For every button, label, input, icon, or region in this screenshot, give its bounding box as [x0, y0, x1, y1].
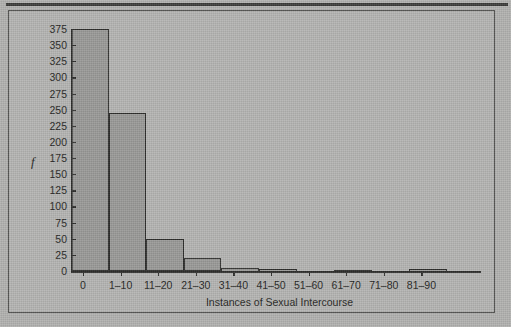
- x-tick-mark: [309, 271, 310, 276]
- x-tick-mark: [346, 271, 347, 276]
- figure-frame: 0255075100125150175200225250275300325350…: [8, 10, 495, 313]
- histogram-bar: [146, 239, 184, 271]
- x-tick-label: 1–10: [109, 279, 132, 291]
- y-tick-mark: [71, 126, 76, 127]
- histogram-plot: 0255075100125150175200225250275300325350…: [9, 11, 494, 312]
- x-tick-mark: [384, 271, 385, 276]
- y-tick-label: 200: [49, 137, 67, 147]
- y-tick-label: 225: [49, 121, 67, 131]
- x-tick-label: 11–20: [144, 279, 172, 291]
- x-tick-label: 21–30: [181, 279, 210, 291]
- x-tick-mark: [83, 271, 84, 276]
- y-tick-mark: [71, 77, 76, 78]
- histogram-bar: [259, 269, 297, 271]
- x-tick-mark: [158, 271, 159, 276]
- y-tick-label: 150: [49, 169, 67, 179]
- x-axis-line: [71, 271, 481, 273]
- x-tick-label: 51–60: [294, 279, 323, 291]
- histogram-bar: [221, 268, 259, 271]
- x-tick-label: 71–80: [369, 279, 398, 291]
- y-tick-label: 25: [55, 250, 67, 260]
- x-tick-label: 31–40: [219, 279, 248, 291]
- y-tick-mark: [71, 142, 76, 143]
- x-tick-mark: [121, 271, 122, 276]
- x-tick-label: 0: [80, 279, 86, 291]
- y-tick-label: 50: [55, 234, 67, 244]
- y-tick-mark: [71, 94, 76, 95]
- histogram-bar: [184, 258, 222, 271]
- y-tick-label: 325: [49, 56, 67, 66]
- y-tick-mark: [71, 110, 76, 111]
- y-tick-label: 275: [49, 89, 67, 99]
- x-tick-label: 61–70: [332, 279, 361, 291]
- y-axis-tick-labels: 0255075100125150175200225250275300325350…: [9, 11, 67, 312]
- y-tick-label: 75: [55, 218, 67, 228]
- scanned-page: 0255075100125150175200225250275300325350…: [0, 0, 511, 327]
- y-tick-label: 175: [49, 153, 67, 163]
- x-tick-mark: [271, 271, 272, 276]
- x-axis-title: Instances of Sexual Intercourse: [9, 296, 494, 308]
- histogram-bar: [334, 270, 372, 271]
- y-axis-title: f: [31, 154, 35, 170]
- y-tick-mark: [71, 190, 76, 191]
- x-tick-mark: [233, 271, 234, 276]
- histogram-bar: [409, 269, 447, 271]
- y-tick-label: 100: [49, 201, 67, 211]
- y-tick-label: 375: [49, 24, 67, 34]
- y-tick-label: 0: [61, 266, 67, 276]
- histogram-bar: [109, 113, 147, 271]
- x-tick-mark: [421, 271, 422, 276]
- y-tick-mark: [71, 255, 76, 256]
- x-tick-label: 41–50: [256, 279, 285, 291]
- y-tick-mark: [71, 174, 76, 175]
- y-tick-mark: [71, 158, 76, 159]
- histogram-bar: [71, 29, 109, 271]
- y-tick-label: 125: [49, 185, 67, 195]
- y-tick-label: 300: [49, 72, 67, 82]
- y-tick-label: 250: [49, 105, 67, 115]
- x-tick-mark: [196, 271, 197, 276]
- x-tick-label: 81–90: [407, 279, 436, 291]
- y-tick-mark: [71, 223, 76, 224]
- y-tick-label: 350: [49, 40, 67, 50]
- y-tick-mark: [71, 29, 76, 30]
- x-axis-title-text: Instances of Sexual Intercourse: [206, 296, 353, 308]
- y-tick-mark: [71, 239, 76, 240]
- y-tick-mark: [71, 206, 76, 207]
- page-top-rule: [6, 3, 508, 6]
- y-tick-mark: [71, 61, 76, 62]
- y-tick-mark: [71, 45, 76, 46]
